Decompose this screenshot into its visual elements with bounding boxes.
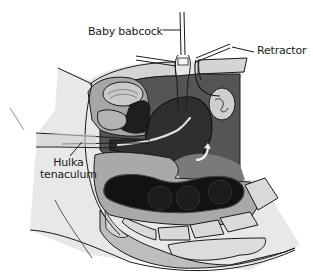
label-retractor: Retractor [257, 45, 306, 57]
leader-retractor [232, 47, 254, 52]
label-hulka-tenaculum: Hulka tenaculum [40, 157, 97, 181]
baby-babcock-instrument [180, 12, 185, 55]
label-hulka-line2: tenaculum [40, 169, 97, 181]
label-baby-babcock: Baby babcock [88, 26, 163, 38]
ovary [209, 88, 235, 120]
abdominal-fat-layer-right [198, 58, 247, 74]
sacral-bone-4 [158, 226, 190, 240]
anatomy-illustration [0, 0, 313, 279]
surgical-diagram: Baby babcock Retractor Hulka tenaculum [0, 0, 313, 279]
